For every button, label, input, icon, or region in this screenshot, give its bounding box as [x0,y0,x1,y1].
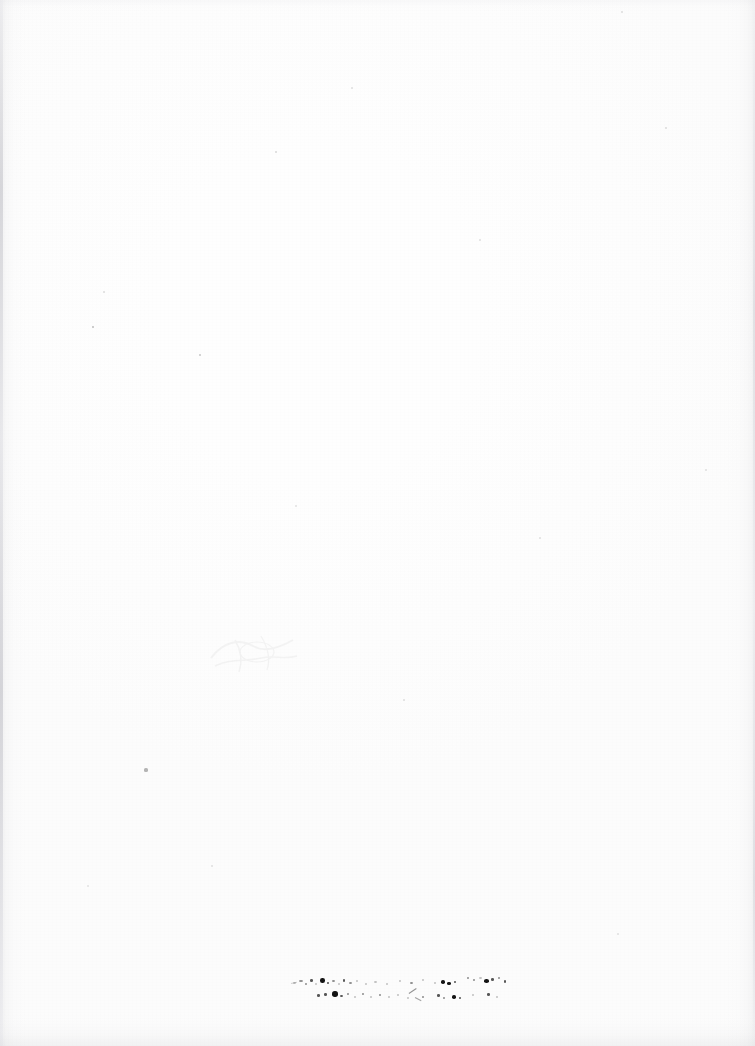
dust-speck [403,699,405,701]
ink-speck [434,982,436,984]
ink-speck [487,993,490,996]
ink-speck [473,979,475,981]
ink-speck [422,979,424,981]
bleed-through-shape [205,628,300,680]
ink-speck [467,977,469,979]
ink-speck [379,994,381,996]
ink-speck [343,979,345,982]
ink-speck [496,996,498,998]
ink-speck [479,977,482,979]
ink-speck [472,994,474,996]
ink-speck [338,983,340,985]
ink-speck [310,979,313,982]
scan-edge-bottom [0,1012,755,1046]
ink-speck [452,995,456,999]
reverse-page-bleed [205,628,300,680]
dust-speck [275,151,277,153]
dust-speck [144,768,147,771]
ink-speck [374,981,377,983]
scanner-grain [0,0,755,1046]
ink-speck [347,993,349,995]
ink-speck [454,981,456,983]
ink-speck [354,996,356,998]
dust-speck [211,865,213,867]
scan-gutter-line [0,0,3,1046]
ink-speck [407,997,409,999]
ink-speck [365,983,367,985]
scan-edge-top [0,0,755,12]
ink-speck [324,993,327,996]
ink-speck [340,995,343,997]
ink-speck [320,978,325,983]
ink-speck [356,980,358,982]
dust-speck [705,469,707,471]
ink-speck [299,980,303,982]
ink-speck [317,994,320,997]
ink-speck [332,980,335,982]
ink-speck [399,980,401,982]
ink-speck [498,977,500,979]
ink-speck [362,993,364,995]
dust-speck [87,885,89,887]
ink-speck [349,982,352,984]
ink-speck [504,980,506,983]
dust-speck [295,505,297,507]
ink-speck [397,994,399,996]
dust-speck [351,87,353,89]
degraded-text-fragment [291,974,516,1004]
ink-speck [484,979,489,983]
ink-speck [315,983,317,985]
ink-speck [437,994,440,997]
scan-edge-right [725,0,755,1046]
ink-speck [441,980,445,984]
dust-speck [539,537,541,539]
ink-speck [447,982,451,985]
ink-speck [388,996,390,998]
ink-speck [422,996,424,998]
ink-stroke [409,988,417,994]
ink-speck [370,996,372,998]
ink-speck [332,991,338,997]
scan-edge-left [0,0,26,1046]
ink-speck [305,983,307,985]
ink-stroke [415,997,422,1001]
ink-speck [410,982,413,984]
ink-speck [491,978,494,981]
scanned-page [0,0,755,1046]
dust-speck [665,127,667,129]
dust-speck [479,239,481,241]
dust-speck [103,291,105,293]
ink-speck [327,982,329,984]
ink-speck [459,997,461,999]
ink-speck [443,997,445,999]
dust-speck [617,933,619,935]
ink-speck [386,983,388,985]
